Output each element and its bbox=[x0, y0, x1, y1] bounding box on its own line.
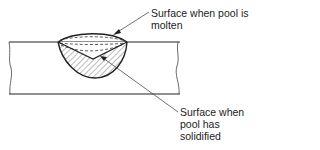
label-molten-line-2: molten bbox=[151, 19, 248, 31]
label-solidified-line-1: Surface when bbox=[180, 106, 244, 118]
label-solidified-line-3: solidified bbox=[180, 130, 244, 142]
label-molten-surface: Surface when pool is molten bbox=[151, 7, 248, 31]
label-molten-line-1: Surface when pool is bbox=[151, 7, 248, 19]
leader-molten bbox=[113, 12, 149, 35]
leader-solidified bbox=[100, 56, 178, 112]
molten-surface-crown bbox=[58, 34, 127, 42]
label-solidified-surface: Surface when pool has solidified bbox=[180, 106, 244, 142]
label-solidified-line-2: pool has bbox=[180, 118, 244, 130]
